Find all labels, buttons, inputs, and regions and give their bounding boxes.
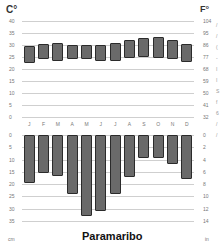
- temp-gridline: [22, 33, 194, 34]
- precip-tick-in: 0: [203, 132, 206, 138]
- precip-gridline: [22, 221, 194, 222]
- temp-tick-f: 59: [203, 78, 209, 84]
- temp-tick-f: 32: [203, 114, 209, 120]
- temp-tick-c: 15: [9, 78, 15, 84]
- temp-range-bar: [153, 37, 164, 59]
- precip-tick-cm: 30: [9, 206, 15, 212]
- temp-range-bar: [24, 46, 35, 63]
- temp-tick-f: 77: [203, 54, 209, 60]
- month-label: J: [24, 121, 34, 127]
- temp-gridline: [22, 69, 194, 70]
- temp-gridline: [22, 93, 194, 94]
- temp-tick-c: 40: [9, 18, 15, 24]
- temp-range-bar: [138, 38, 149, 57]
- precip-bar: [167, 135, 178, 164]
- month-label: D: [182, 121, 192, 127]
- precip-tick-in: 14: [203, 218, 209, 224]
- precip-tick-cm: 5: [9, 144, 12, 150]
- precip-tick-cm: 10: [9, 157, 15, 163]
- precip-bar: [181, 135, 192, 179]
- temp-range-bar: [81, 45, 92, 59]
- precip-bar: [38, 135, 49, 173]
- precip-tick-in: 10: [203, 193, 209, 199]
- in-label: in: [205, 236, 209, 242]
- precip-tick-in: 8: [203, 181, 206, 187]
- month-label: M: [53, 121, 63, 127]
- precip-tick-in: 4: [203, 157, 206, 163]
- precip-bar: [124, 135, 135, 177]
- precip-bar: [52, 135, 63, 176]
- month-label: J: [96, 121, 106, 127]
- precip-bar: [153, 135, 164, 158]
- temp-range-bar: [38, 44, 49, 60]
- fahrenheit-label: F°: [200, 4, 209, 14]
- temp-gridline: [22, 81, 194, 82]
- precip-gridline: [22, 209, 194, 210]
- month-label: J: [110, 121, 120, 127]
- precip-tick-cm: 20: [9, 181, 15, 187]
- precip-bar: [110, 135, 121, 194]
- precip-tick-in: 12: [203, 206, 209, 212]
- right-edge-text: //(-IISf6//: [216, 20, 219, 141]
- temp-range-bar: [95, 45, 106, 61]
- month-label: O: [153, 121, 163, 127]
- temp-tick-f: 50: [203, 90, 209, 96]
- month-label: F: [39, 121, 49, 127]
- precip-bar: [138, 135, 149, 158]
- temp-range-bar: [124, 40, 135, 58]
- temp-tick-c: 20: [9, 66, 15, 72]
- temp-tick-c: 30: [9, 42, 15, 48]
- precip-bar: [67, 135, 78, 194]
- temp-tick-c: 0: [9, 114, 12, 120]
- temp-tick-c: 10: [9, 90, 15, 96]
- temp-range-bar: [52, 43, 63, 61]
- temp-range-bar: [110, 43, 121, 61]
- precip-bar: [24, 135, 35, 183]
- celsius-label: C°: [6, 4, 17, 15]
- precip-tick-cm: 0: [9, 132, 12, 138]
- temp-range-bar: [67, 45, 78, 59]
- precip-tick-cm: 35: [9, 218, 15, 224]
- temp-gridline: [22, 21, 194, 22]
- precip-bar: [95, 135, 106, 211]
- temp-tick-f: 41: [203, 102, 209, 108]
- month-label: A: [125, 121, 135, 127]
- precip-bar: [81, 135, 92, 216]
- temp-tick-c: 35: [9, 30, 15, 36]
- temp-tick-f: 68: [203, 66, 209, 72]
- chart-title: Paramaribo: [82, 230, 143, 242]
- precip-tick-in: 2: [203, 144, 206, 150]
- temp-gridline: [22, 117, 194, 118]
- precip-gridline: [22, 184, 194, 185]
- month-label: N: [168, 121, 178, 127]
- month-label: S: [139, 121, 149, 127]
- temp-tick-f: 86: [203, 42, 209, 48]
- temp-range-bar: [181, 44, 192, 62]
- temp-tick-c: 5: [9, 102, 12, 108]
- precip-tick-cm: 25: [9, 193, 15, 199]
- month-label: A: [67, 121, 77, 127]
- temp-range-bar: [167, 40, 178, 59]
- temp-tick-f: 104: [203, 18, 211, 24]
- temp-tick-c: 25: [9, 54, 15, 60]
- precip-tick-cm: 15: [9, 169, 15, 175]
- temp-tick-f: 95: [203, 30, 209, 36]
- temp-gridline: [22, 105, 194, 106]
- precip-gridline: [22, 196, 194, 197]
- precip-tick-in: 6: [203, 169, 206, 175]
- cm-label: cm: [8, 236, 15, 242]
- month-label: M: [82, 121, 92, 127]
